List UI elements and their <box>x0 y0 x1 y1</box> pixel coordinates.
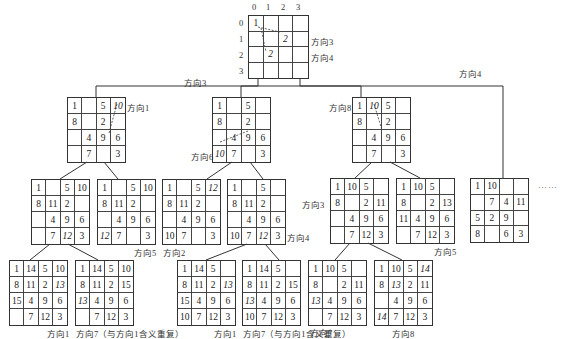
board-cell: 1 <box>375 261 389 277</box>
board-cell: 9 <box>127 212 141 228</box>
board-cell: 5 <box>360 179 374 195</box>
board-cell: 2 <box>192 196 206 212</box>
board-node: 114581121513496107123 <box>242 260 301 326</box>
board-cell: 10 <box>389 261 403 277</box>
board-cell <box>382 146 396 162</box>
board-node: 11058249673 <box>352 97 411 163</box>
board-node: 114581121315496107123 <box>177 260 236 326</box>
board-cell <box>264 32 279 48</box>
board-cell: 4 <box>500 195 514 211</box>
board-cell: 14 <box>257 261 271 277</box>
direction-label: 方向8 <box>329 101 351 113</box>
board-cell: 7 <box>411 227 425 243</box>
board-node: 151081124967123 <box>31 179 90 245</box>
board-cell: 13 <box>76 293 90 309</box>
board-cell: 1 <box>98 180 112 196</box>
board-cell: 10 <box>243 309 257 325</box>
board-cell: 6 <box>440 211 454 227</box>
board-node: 15824961073 <box>212 97 271 163</box>
board-cell <box>75 196 89 212</box>
board-cell <box>98 212 112 228</box>
board-cell: 8 <box>397 195 411 211</box>
board-cell: 10 <box>119 261 133 277</box>
board-cell <box>440 179 454 195</box>
board-cell <box>271 180 285 196</box>
board-cell: 7 <box>485 195 499 211</box>
board-cell <box>471 195 485 211</box>
board-cell: 3 <box>514 226 528 242</box>
board-cell <box>221 261 235 277</box>
board-cell <box>514 211 528 227</box>
board-cell: 14 <box>192 261 206 277</box>
board-cell: 3 <box>119 309 133 325</box>
root-board: 122 <box>248 15 309 79</box>
board-cell: 14 <box>24 261 38 277</box>
board-cell: 12 <box>39 309 53 325</box>
board-cell: 4 <box>90 293 104 309</box>
board-cell: 2 <box>485 211 499 227</box>
board-cell <box>331 227 345 243</box>
board-cell <box>279 63 294 79</box>
board-cell: 7 <box>46 228 60 244</box>
board-cell: 5 <box>97 98 111 114</box>
board-cell: 1 <box>178 261 192 277</box>
board-cell: 11 <box>374 195 388 211</box>
board-cell: 4 <box>257 293 271 309</box>
board-cell <box>352 261 366 277</box>
board-cell: 5 <box>242 98 256 114</box>
board-cell <box>286 261 300 277</box>
board-cell: 3 <box>221 309 235 325</box>
board-cell: 10 <box>228 228 242 244</box>
board-cell <box>242 180 256 196</box>
board-cell: 1 <box>163 180 177 196</box>
board-cell: 14 <box>418 261 432 277</box>
board-cell: 8 <box>353 114 367 130</box>
board-cell: 4 <box>242 212 256 228</box>
board-cell: 11 <box>257 277 271 293</box>
board-cell: 12 <box>105 309 119 325</box>
board-cell: 1 <box>10 261 24 277</box>
board-cell: 1 <box>68 98 82 114</box>
board-cell: 15 <box>119 277 133 293</box>
row-label: 1 <box>239 34 243 44</box>
board-cell: 9 <box>338 293 352 309</box>
direction-label: 方向8 <box>392 327 414 339</box>
board-cell: 12 <box>61 228 75 244</box>
board-cell: 8 <box>375 277 389 293</box>
board-cell: 1 <box>32 180 46 196</box>
board-cell: 3 <box>396 146 410 162</box>
board-cell: 13 <box>389 277 403 293</box>
board-cell: 2 <box>360 195 374 211</box>
board-cell: 9 <box>105 293 119 309</box>
board-cell: 2 <box>382 114 396 130</box>
board-node: 110514813211496147123 <box>374 260 433 326</box>
board-cell: 2 <box>338 277 352 293</box>
board-cell <box>46 180 60 196</box>
board-cell <box>163 212 177 228</box>
board-cell: 8 <box>213 114 227 130</box>
board-cell: 3 <box>374 227 388 243</box>
board-cell <box>97 146 111 162</box>
board-cell: 12 <box>98 228 112 244</box>
edge-label-left: 方向3 <box>184 76 206 88</box>
board-cell: 4 <box>192 293 206 309</box>
board-cell: 12 <box>207 309 221 325</box>
board-cell: 2 <box>127 196 141 212</box>
board-cell <box>309 309 323 325</box>
board-cell <box>293 32 308 48</box>
board-cell: 1 <box>243 261 257 277</box>
board-cell: 12 <box>257 228 271 244</box>
board-cell: 3 <box>75 228 89 244</box>
board-cell: 7 <box>90 309 104 325</box>
board-cell <box>68 146 82 162</box>
direction-label: 方向1 <box>127 101 149 113</box>
board-cell <box>279 47 294 63</box>
board-cell: 11 <box>46 196 60 212</box>
root-direction-label: 方向3 <box>311 35 333 47</box>
board-cell: 11 <box>352 277 366 293</box>
board-cell: 11 <box>514 195 528 211</box>
board-cell <box>331 211 345 227</box>
board-cell <box>112 180 126 196</box>
board-cell: 4 <box>389 293 403 309</box>
board-cell <box>485 226 499 242</box>
